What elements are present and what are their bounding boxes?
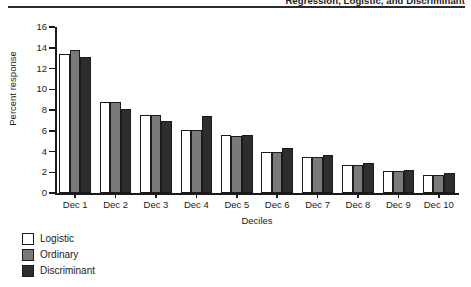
bar-discriminant-dec-4 — [202, 116, 213, 193]
bar-group — [59, 27, 91, 193]
bar-logistic-dec-1 — [59, 54, 70, 193]
running-head: Regression, Logistic, and Discriminant — [0, 0, 471, 9]
bar-logistic-dec-4 — [181, 130, 192, 193]
bar-ordinary-dec-4 — [191, 130, 202, 193]
x-axis-title: Deciles — [55, 215, 459, 226]
y-axis-tick-label: 16 — [25, 22, 47, 32]
legend-label-ordinary: Ordinary — [40, 249, 78, 261]
y-axis-tick-labels: 0246810121416 — [20, 9, 47, 209]
x-axis-tick-label: Dec 10 — [419, 199, 459, 210]
y-axis-tick-label: 2 — [25, 167, 47, 177]
plot-area — [55, 27, 459, 193]
bar-ordinary-dec-9 — [393, 171, 404, 193]
legend-item-ordinary: Ordinary — [22, 247, 182, 262]
bar-chart-figure: Percent response 0246810121416 Dec 1Dec … — [0, 9, 471, 287]
bar-group — [100, 27, 132, 193]
y-axis-tick-label: 4 — [25, 147, 47, 157]
bar-discriminant-dec-2 — [121, 109, 132, 193]
bar-logistic-dec-5 — [221, 135, 232, 193]
bar-logistic-dec-6 — [261, 152, 272, 194]
chart-legend: LogisticOrdinaryDiscriminant — [22, 231, 182, 279]
bar-discriminant-dec-9 — [404, 170, 415, 193]
y-axis-title: Percent response — [7, 29, 18, 149]
x-axis-tick-label: Dec 8 — [338, 199, 378, 210]
bar-group — [261, 27, 293, 193]
y-axis-tick-label: 0 — [25, 188, 47, 198]
bar-logistic-dec-10 — [423, 175, 434, 193]
y-axis-tick-label: 12 — [25, 64, 47, 74]
bar-logistic-dec-2 — [100, 102, 111, 193]
bar-ordinary-dec-3 — [151, 115, 162, 193]
x-axis-tick — [357, 193, 359, 198]
y-axis-tick-label: 10 — [25, 84, 47, 94]
bar-logistic-dec-8 — [342, 165, 353, 193]
bar-ordinary-dec-10 — [433, 175, 444, 193]
legend-swatch-logistic — [22, 233, 34, 245]
x-axis-tick-label: Dec 6 — [257, 199, 297, 210]
bar-discriminant-dec-1 — [80, 57, 91, 193]
x-axis-tick-label: Dec 7 — [297, 199, 337, 210]
legend-swatch-discriminant — [22, 265, 34, 277]
x-axis-tick — [115, 193, 117, 198]
bar-group — [221, 27, 253, 193]
legend-item-discriminant: Discriminant — [22, 263, 182, 278]
x-axis-tick — [398, 193, 400, 198]
bar-discriminant-dec-7 — [323, 155, 334, 193]
bar-discriminant-dec-8 — [363, 163, 374, 193]
legend-swatch-ordinary — [22, 249, 34, 261]
x-axis-tick — [74, 193, 76, 198]
bar-group — [342, 27, 374, 193]
legend-item-logistic: Logistic — [22, 231, 182, 246]
bar-ordinary-dec-8 — [353, 165, 364, 193]
legend-label-discriminant: Discriminant — [40, 265, 95, 277]
x-axis-tick — [438, 193, 440, 198]
x-axis-tick — [155, 193, 157, 198]
bar-ordinary-dec-1 — [70, 50, 81, 193]
x-axis-tick-label: Dec 4 — [176, 199, 216, 210]
x-axis-tick-label: Dec 5 — [217, 199, 257, 210]
x-axis-tick-label: Dec 1 — [55, 199, 95, 210]
bar-group — [181, 27, 213, 193]
x-axis-tick — [276, 193, 278, 198]
bar-discriminant-dec-5 — [242, 135, 253, 193]
bar-logistic-dec-7 — [302, 157, 313, 193]
bar-ordinary-dec-6 — [272, 152, 283, 194]
bar-logistic-dec-3 — [140, 115, 151, 193]
x-axis-tick — [196, 193, 198, 198]
bar-ordinary-dec-7 — [312, 157, 323, 193]
x-axis-tick-label: Dec 9 — [378, 199, 418, 210]
y-axis-tick-label: 6 — [25, 126, 47, 136]
y-axis-tick-label: 8 — [25, 105, 47, 115]
bar-group — [140, 27, 172, 193]
bar-ordinary-dec-2 — [110, 102, 121, 193]
running-head-rule — [8, 6, 465, 8]
bar-discriminant-dec-6 — [282, 148, 293, 193]
x-axis-tick — [236, 193, 238, 198]
y-axis-tick-label: 14 — [25, 43, 47, 53]
bar-logistic-dec-9 — [383, 171, 394, 193]
bar-discriminant-dec-3 — [161, 121, 172, 193]
legend-label-logistic: Logistic — [40, 233, 74, 245]
bar-group — [383, 27, 415, 193]
bar-ordinary-dec-5 — [231, 136, 242, 193]
bar-group — [302, 27, 334, 193]
bar-discriminant-dec-10 — [444, 173, 455, 193]
bar-group — [423, 27, 455, 193]
x-axis-tick-label: Dec 2 — [95, 199, 135, 210]
x-axis-tick-label: Dec 3 — [136, 199, 176, 210]
x-axis-tick — [317, 193, 319, 198]
